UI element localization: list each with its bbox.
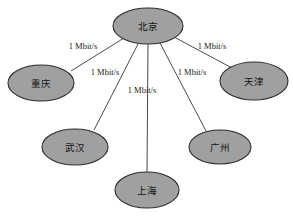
edge-beijing-guangzhou — [160, 43, 206, 131]
node-tianjin[interactable]: 天津 — [220, 62, 288, 100]
edge-label-beijing-guangzhou: 1 Mbit/s — [178, 67, 207, 77]
node-label-chongqing: 重庆 — [31, 78, 51, 89]
edge-label-beijing-chongqing: 1 Mbit/s — [69, 41, 98, 51]
node-label-wuhan: 武汉 — [65, 142, 85, 153]
node-guangzhou[interactable]: 广州 — [189, 130, 251, 164]
node-label-shanghai: 上海 — [137, 185, 157, 196]
network-topology-diagram: 重庆 天津 武汉 广州 上海 北京 — [0, 0, 293, 219]
node-label-guangzhou: 广州 — [210, 142, 230, 153]
node-wuhan[interactable]: 武汉 — [42, 129, 108, 165]
node-shanghai[interactable]: 上海 — [115, 172, 179, 208]
node-beijing[interactable]: 北京 — [113, 8, 183, 44]
diagram-canvas: 重庆 天津 武汉 广州 上海 北京 — [0, 0, 293, 219]
edge-label-beijing-shanghai: 1 Mbit/s — [128, 85, 157, 95]
edge-label-beijing-tianjin: 1 Mbit/s — [198, 41, 227, 51]
node-label-tianjin: 天津 — [244, 76, 264, 87]
edge-beijing-shanghai — [147, 44, 148, 172]
edge-label-beijing-wuhan: 1 Mbit/s — [91, 67, 120, 77]
node-chongqing[interactable]: 重庆 — [8, 65, 74, 101]
node-label-beijing: 北京 — [138, 21, 158, 32]
